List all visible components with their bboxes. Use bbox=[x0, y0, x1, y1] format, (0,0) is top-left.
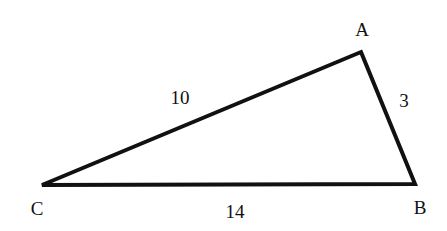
side-label-cb: 14 bbox=[226, 201, 246, 222]
triangle-svg: A B C 10 3 14 bbox=[0, 0, 447, 231]
triangle-abc bbox=[42, 52, 415, 185]
vertex-label-b: B bbox=[414, 197, 427, 218]
side-label-ca: 10 bbox=[171, 87, 190, 108]
side-label-ab: 3 bbox=[399, 90, 409, 111]
vertex-label-a: A bbox=[355, 19, 369, 40]
triangle-diagram: A B C 10 3 14 bbox=[0, 0, 447, 231]
vertex-label-c: C bbox=[31, 198, 44, 219]
